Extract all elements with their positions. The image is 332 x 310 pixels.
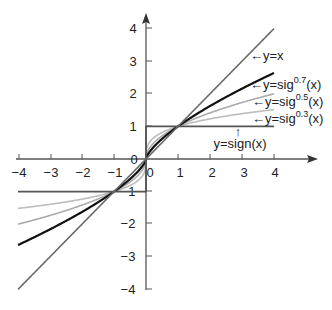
label-main: ←y=sig (252, 111, 296, 126)
x-tick-label: 4 (271, 165, 278, 180)
label-sign: y=sign(x) (213, 136, 266, 151)
y-tick-label: −4 (121, 282, 136, 297)
label-sig-0-7: ←y=sig0.7(x) (250, 75, 321, 92)
label-suffix: (x) (308, 94, 323, 109)
x-tick-label: 0 (146, 165, 153, 180)
label-suffix: (x) (306, 77, 321, 92)
y-tick-label: 2 (129, 86, 136, 101)
label-suffix: (x) (308, 111, 323, 126)
annotations: ←y=x ←y=sig0.7(x) ←y=sig0.5(x) ←y=sig0.3… (213, 48, 323, 151)
y-tick-label: −3 (121, 249, 136, 264)
label-main: ←y=sig (252, 94, 296, 109)
y-tick-label: 1 (129, 119, 136, 134)
x-tick-label: −4 (12, 165, 27, 180)
label-exponent: 0.7 (294, 75, 307, 85)
x-tick-label: 1 (176, 165, 183, 180)
sign-power-chart: −4 −3 −2 −1 0 1 2 3 4 4 3 2 1 0 −1 −2 −3… (0, 0, 332, 310)
label-y-equals-x: ←y=x (250, 48, 284, 63)
label-sig-0-3: ←y=sig0.3(x) (252, 109, 323, 126)
x-tick-label: −3 (44, 165, 59, 180)
label-exponent: 0.3 (296, 109, 309, 119)
x-tick-label: 2 (208, 165, 215, 180)
label-sig-0-5: ←y=sig0.5(x) (252, 92, 323, 109)
x-tick-label: −2 (76, 165, 91, 180)
label-main: ←y=sig (250, 77, 294, 92)
origin-label: 0 (130, 152, 137, 167)
y-tick-label: 3 (129, 54, 136, 69)
label-exponent: 0.5 (296, 92, 309, 102)
x-tick-label: −1 (108, 165, 123, 180)
y-tick-label: −2 (121, 216, 136, 231)
y-tick-label: 4 (129, 21, 136, 36)
x-tick-label: 3 (240, 165, 247, 180)
